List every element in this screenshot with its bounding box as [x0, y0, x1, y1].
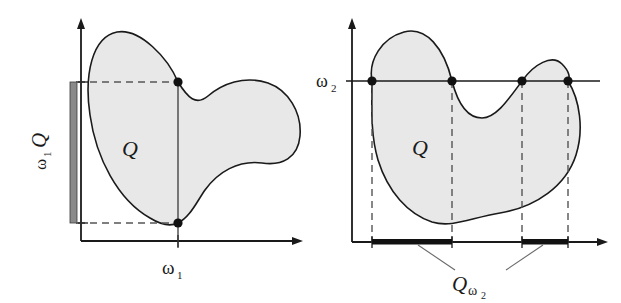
right-intersection-dot-3 [517, 76, 526, 85]
right-intersection-dot-1 [367, 76, 376, 85]
left-intersection-dot-bottom [173, 218, 182, 227]
figure-canvas: Q ω 1 ω 1 Q [0, 0, 621, 303]
left-projection-bar [70, 82, 77, 223]
right-intersection-dot-4 [563, 76, 572, 85]
left-region-label: Q [122, 136, 138, 161]
right-intersection-dot-2 [447, 76, 456, 85]
right-y-axis-label-omega: ω [316, 71, 328, 91]
left-y-axis-label-sub: 1 [41, 152, 53, 158]
left-y-axis-label-omega: ω [31, 159, 50, 170]
left-x-axis-label-omega: ω [162, 257, 175, 278]
left-y-axis-label-q: Q [27, 133, 51, 148]
left-intersection-dot-top [173, 77, 182, 86]
right-bottom-label-omega: ω [468, 283, 477, 298]
right-region-label: Q [412, 135, 428, 160]
math-diagram-svg: Q ω 1 ω 1 Q [0, 0, 621, 303]
left-x-axis-label-sub: 1 [177, 269, 183, 281]
right-projection-interval-2 [522, 239, 568, 245]
right-projection-interval-1 [372, 239, 452, 245]
right-y-axis-label-sub: 2 [331, 82, 337, 94]
right-bottom-label-index: 2 [481, 290, 486, 301]
right-bottom-label-q: Q [452, 272, 467, 296]
